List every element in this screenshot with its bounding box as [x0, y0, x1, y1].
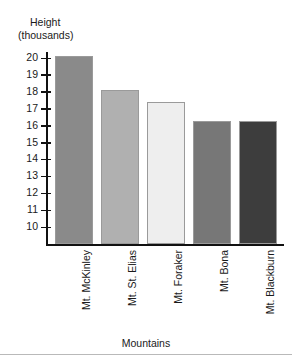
x-axis-category-label: Mt. Bona: [218, 250, 230, 340]
x-axis-category-label: Mt. St. Elias: [126, 250, 138, 340]
bottom-divider: [0, 354, 292, 355]
x-axis-category-label: Mt. Foraker: [172, 250, 184, 340]
x-axis-category-label: Mt. McKinley: [80, 250, 92, 340]
bar: [55, 56, 93, 244]
bar: [193, 121, 231, 244]
bar: [101, 90, 139, 244]
bar: [239, 121, 277, 244]
bars-layer: [0, 0, 292, 362]
bar: [147, 102, 185, 244]
x-axis-category-label: Mt. Blackburn: [264, 250, 276, 340]
bar-chart-figure: Height (thousands) 201918171615141312111…: [0, 0, 292, 362]
x-axis-title: Mountains: [0, 337, 292, 349]
